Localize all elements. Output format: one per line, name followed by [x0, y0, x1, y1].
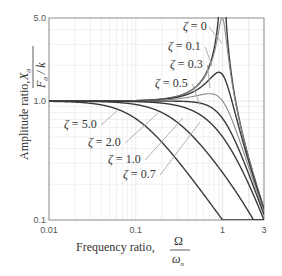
zeta-label: ζ = 2.0 — [88, 135, 121, 149]
curve-zeta-0-5 — [49, 94, 264, 212]
curve-zeta-0-1 — [49, 18, 264, 209]
leader-line — [101, 111, 117, 125]
y-tick-label: 5.0 — [33, 13, 46, 23]
x-den-sub: n — [180, 260, 184, 268]
y-axis-label-prefix: Amplitude ratio, — [17, 81, 31, 160]
x-tick-label: 1 — [220, 225, 225, 235]
x-num: Ω — [174, 234, 183, 248]
leader-line — [125, 113, 158, 143]
x-axis-label-prefix: Frequency ratio, — [76, 240, 155, 254]
x-tick-label: 3 — [261, 225, 266, 235]
x-tick-label: 0.01 — [40, 225, 58, 235]
x-axis-fraction: Ω ωn — [170, 234, 190, 268]
svg-text:F0 / k: F0 / k — [34, 62, 50, 89]
zeta-label: ζ = 0 — [183, 19, 207, 33]
zeta-label: ζ = 0.3 — [170, 57, 203, 71]
y-tick-label: 0.1 — [33, 215, 46, 225]
x-den: ω — [172, 252, 180, 266]
svg-text:X0: X0 — [17, 69, 33, 81]
zeta-label: ζ = 0.1 — [168, 39, 201, 53]
zeta-label: ζ = 0.5 — [155, 76, 188, 90]
y-den-tail: / k — [34, 62, 48, 77]
curve-zeta-0 — [49, 16, 264, 208]
y-tick-label: 1.0 — [33, 96, 46, 106]
zeta-label: ζ = 0.7 — [123, 167, 156, 181]
y-num-sub: 0 — [25, 69, 33, 73]
curve-zeta-0-3 — [49, 72, 264, 209]
svg-text:ωn: ωn — [172, 252, 184, 268]
zeta-label: ζ = 5.0 — [64, 117, 97, 131]
y-axis-label: Amplitude ratio, — [17, 81, 31, 160]
zeta-label: ζ = 1.0 — [108, 152, 141, 166]
x-tick-label: 0.1 — [130, 225, 143, 235]
frequency-response-chart: ζ = 0ζ = 0.1ζ = 0.3ζ = 0.5ζ = 5.0ζ = 2.0… — [0, 0, 282, 276]
leader-line — [205, 47, 212, 66]
